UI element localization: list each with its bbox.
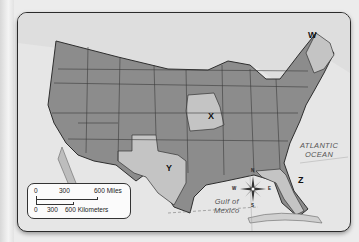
- scale-km-600: 600 Kilometers: [65, 206, 108, 213]
- marker-w: W: [308, 30, 317, 40]
- scale-km-0: 0: [34, 206, 38, 213]
- compass-rose-icon: N S E W: [236, 172, 270, 206]
- marker-y: Y: [166, 163, 172, 173]
- marker-z: Z: [298, 175, 304, 185]
- scale-miles-600: 600 Miles: [94, 187, 122, 194]
- atlantic-ocean-label: ATLANTIC OCEAN: [300, 141, 338, 159]
- scale-bar: 0 300 600 Miles 0 300 600 Kilometers: [27, 183, 131, 219]
- scale-km-300: 300: [47, 206, 58, 213]
- scale-miles-300: 300: [59, 187, 70, 194]
- page-edge: [0, 0, 14, 242]
- scale-miles-0: 0: [34, 187, 38, 194]
- marker-x: X: [208, 111, 214, 121]
